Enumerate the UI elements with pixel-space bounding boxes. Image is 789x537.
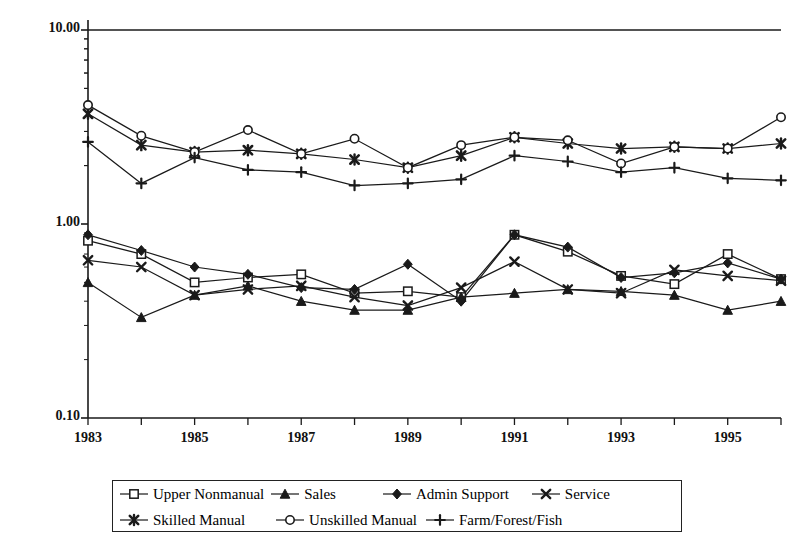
x-axis-tick-label: 1991: [484, 430, 544, 446]
y-axis-tick-label: 1.00: [8, 214, 80, 230]
legend-label: Admin Support: [416, 486, 509, 503]
line-chart-plot: [0, 0, 789, 537]
y-axis-tick-label: 0.10: [8, 408, 80, 424]
legend-marker: [425, 512, 455, 528]
plus-marker-icon: [425, 512, 455, 528]
chart-legend: Upper NonmanualSalesAdmin SupportService…: [112, 480, 682, 532]
open-square-marker-icon: [119, 486, 149, 502]
x-axis-tick-label: 1985: [165, 430, 225, 446]
legend-label: Skilled Manual: [153, 512, 245, 529]
x-axis-tick-label: 1989: [378, 430, 438, 446]
open-circle-marker-icon: [275, 512, 305, 528]
x-axis-tick-label: 1987: [271, 430, 331, 446]
x-axis-tick-label: 1983: [58, 430, 118, 446]
legend-item-admin-support[interactable]: Admin Support: [382, 486, 509, 503]
legend-label: Unskilled Manual: [309, 512, 417, 529]
filled-diamond-marker-icon: [382, 486, 412, 502]
legend-item-service[interactable]: Service: [531, 486, 610, 503]
legend-marker: [119, 512, 149, 528]
legend-marker: [531, 486, 561, 502]
filled-x-marker-icon: [531, 486, 561, 502]
legend-item-unskilled-manual[interactable]: Unskilled Manual: [275, 512, 417, 529]
series-skilled-manual: [84, 109, 785, 173]
series-upper-nonmanual: [84, 231, 785, 302]
legend-label: Upper Nonmanual: [153, 486, 264, 503]
legend-marker: [382, 486, 412, 502]
series-farm-forest-fish: [83, 137, 786, 190]
legend-marker: [270, 486, 300, 502]
x-axis-tick-label: 1995: [698, 430, 758, 446]
series-sales: [83, 278, 786, 322]
legend-marker: [275, 512, 305, 528]
filled-triangle-marker-icon: [270, 486, 300, 502]
x-axis-tick-label: 1993: [591, 430, 651, 446]
legend-item-upper-nonmanual[interactable]: Upper Nonmanual: [119, 486, 264, 503]
y-axis-tick-label: 10.00: [8, 20, 80, 36]
legend-row-1: Upper NonmanualSalesAdmin SupportService: [113, 481, 681, 507]
legend-label: Service: [565, 486, 610, 503]
chart-container: 10.001.000.10 19831985198719891991199319…: [0, 0, 789, 537]
legend-item-farm-forest-fish[interactable]: Farm/Forest/Fish: [425, 512, 562, 529]
legend-label: Farm/Forest/Fish: [459, 512, 562, 529]
legend-marker: [119, 486, 149, 502]
legend-label: Sales: [304, 486, 336, 503]
legend-item-skilled-manual[interactable]: Skilled Manual: [119, 512, 245, 529]
legend-item-sales[interactable]: Sales: [270, 486, 336, 503]
legend-row-2: Skilled ManualUnskilled ManualFarm/Fores…: [113, 507, 681, 533]
filled-star-x-marker-icon: [119, 512, 149, 528]
